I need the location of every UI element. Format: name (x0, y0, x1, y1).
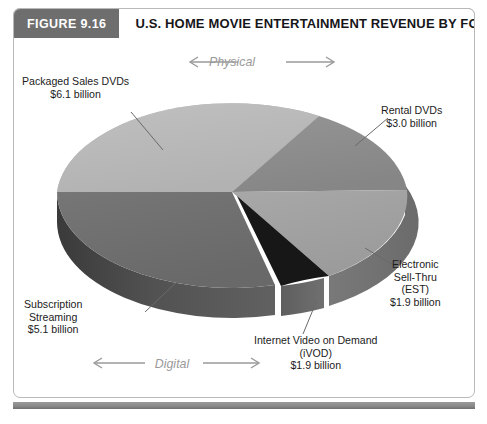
callout-ivod-line2: (iVOD) (254, 347, 377, 360)
callout-packaged-sales-dvds: Packaged Sales DVDs $6.1 billion (22, 75, 129, 100)
group-label-physical: Physical (209, 55, 255, 69)
figure-number-badge: FIGURE 9.16 (14, 9, 119, 38)
callout-ivod-line1: Internet Video on Demand (254, 334, 377, 347)
callout-est-line1: Electronic (390, 258, 441, 271)
group-label-digital: Digital (155, 357, 189, 371)
callout-packaged-line1: Packaged Sales DVDs (22, 75, 129, 88)
callout-est-line3: (EST) (390, 283, 441, 296)
callout-est-line2: Sell-Thru (390, 271, 441, 284)
callout-packaged-line2: $6.1 billion (22, 88, 129, 101)
figure-header: FIGURE 9.16 U.S. HOME MOVIE ENTERTAINMEN… (13, 8, 475, 38)
figure-footer-bar (13, 402, 475, 409)
callout-est-line4: $1.9 billion (390, 296, 441, 309)
figure-title: U.S. HOME MOVIE ENTERTAINMENT REVENUE BY… (119, 9, 475, 38)
callout-rental-line1: Rental DVDs (381, 104, 442, 117)
callout-subscription-line3: $5.1 billion (24, 323, 82, 336)
callout-rental-line2: $3.0 billion (381, 117, 442, 130)
callout-rental-dvds: Rental DVDs $3.0 billion (381, 104, 442, 129)
callout-ivod-line3: $1.9 billion (254, 359, 377, 372)
callout-subscription-line2: Streaming (24, 311, 82, 324)
callout-internet-video-on-demand: Internet Video on Demand (iVOD) $1.9 bil… (254, 334, 377, 372)
callout-electronic-sell-thru: Electronic Sell-Thru (EST) $1.9 billion (390, 258, 441, 308)
callout-subscription-line1: Subscription (24, 298, 82, 311)
callout-subscription-streaming: Subscription Streaming $5.1 billion (24, 298, 82, 336)
